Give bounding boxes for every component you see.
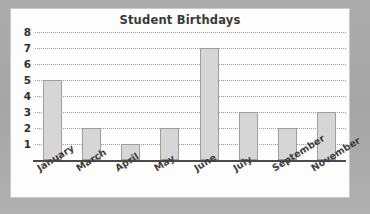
y-axis-tick-label: 5 — [17, 74, 31, 86]
y-axis-tick-label: 7 — [17, 42, 31, 54]
x-axis-labels: JanuaryMarchAprilMayJuneJulySeptemberNov… — [33, 162, 346, 202]
y-axis-tick-label: 8 — [17, 26, 31, 38]
plot-area: 87654321 JanuaryMarchAprilMayJuneJulySep… — [11, 9, 349, 197]
chart-panel: Student Birthdays 87654321 JanuaryMarchA… — [11, 9, 349, 197]
page-background: Student Birthdays 87654321 JanuaryMarchA… — [0, 0, 370, 214]
bar — [239, 112, 258, 160]
y-axis-tick-label: 1 — [17, 138, 31, 150]
bar-series — [33, 9, 346, 160]
bar — [200, 48, 219, 160]
y-axis-tick-label: 6 — [17, 58, 31, 70]
y-axis-tick-label: 3 — [17, 106, 31, 118]
y-axis-tick-label: 2 — [17, 122, 31, 134]
y-axis-tick-label: 4 — [17, 90, 31, 102]
